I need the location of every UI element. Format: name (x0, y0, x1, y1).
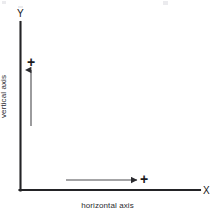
scan-artifact (2, 1, 6, 4)
horizontal-axis-caption: horizontal axis (0, 202, 215, 210)
diagram-linework (0, 0, 215, 215)
vertical-positive-sign: + (27, 55, 35, 69)
x-axis-letter: X (203, 186, 210, 196)
scan-artifact (163, 1, 168, 5)
scan-artifact (18, 6, 23, 8)
y-axis-letter: Y (17, 9, 24, 19)
coordinate-axes-diagram: Y X + + vertical axis horizontal axis (0, 0, 215, 215)
horizontal-positive-sign: + (140, 172, 148, 186)
vertical-axis-caption: vertical axis (0, 75, 8, 118)
